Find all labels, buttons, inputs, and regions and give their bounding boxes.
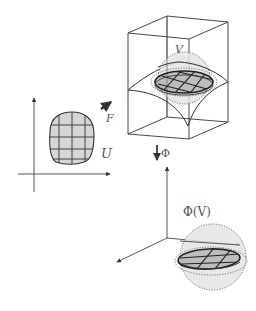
region-U [44,105,100,170]
patch-V [155,70,214,96]
arrow-F [101,102,111,109]
label-F: F [105,112,114,125]
label-Phi: Φ [161,147,170,160]
label-Phi-V: Φ(V) [183,205,211,219]
diagram-canvas: U F [0,0,256,311]
label-V: V [175,43,184,56]
label-U: U [101,146,113,161]
y-axis-3d [117,238,167,262]
